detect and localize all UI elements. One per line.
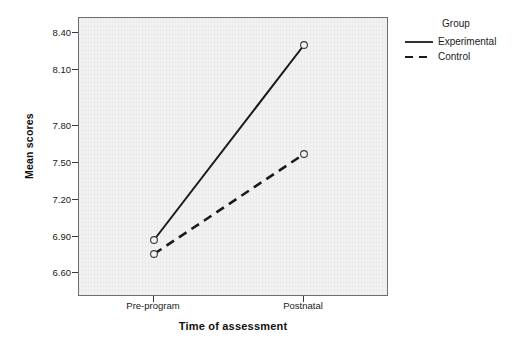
- legend-label-experimental: Experimental: [438, 36, 496, 47]
- legend-title: Group: [404, 18, 508, 29]
- chart-figure: Mean scores 8.40 8.10 7.80 7.50 7.20 6.9…: [0, 0, 520, 345]
- legend: Group Experimental Control: [404, 18, 520, 64]
- legend-swatch-dashed-icon: [404, 52, 434, 62]
- y-tick-label-7.50: 7.50: [31, 157, 71, 168]
- y-tick-label-6.60: 6.60: [31, 267, 71, 278]
- data-point-control-post: [301, 151, 308, 158]
- y-tick-label-7.80: 7.80: [31, 120, 71, 131]
- y-tick-label-8.40: 8.40: [31, 27, 71, 38]
- y-tick-label-8.10: 8.10: [31, 64, 71, 75]
- y-tick-label-7.20: 7.20: [31, 194, 71, 205]
- legend-label-control: Control: [438, 51, 470, 62]
- series-line-experimental: [154, 45, 304, 240]
- legend-swatch-solid-icon: [404, 37, 434, 47]
- plot-series-svg: [79, 18, 387, 295]
- x-tick-label-pre-program: Pre-program: [98, 300, 208, 311]
- x-tick-label-postnatal: Postnatal: [248, 300, 358, 311]
- data-point-control-pre: [151, 251, 158, 258]
- data-point-experimental-pre: [151, 237, 158, 244]
- series-line-control: [154, 154, 304, 254]
- legend-item-control[interactable]: Control: [404, 49, 520, 64]
- y-tick-label-6.90: 6.90: [31, 231, 71, 242]
- legend-item-experimental[interactable]: Experimental: [404, 34, 520, 49]
- plot-area: [78, 17, 388, 296]
- data-point-experimental-post: [301, 42, 308, 49]
- x-axis-title: Time of assessment: [78, 320, 388, 332]
